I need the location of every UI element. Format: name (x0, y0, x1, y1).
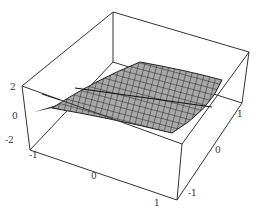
svg-text:0: 0 (12, 111, 18, 121)
svg-text:1: 1 (237, 109, 243, 119)
svg-text:0: 0 (215, 145, 221, 155)
svg-text:1: 1 (154, 198, 160, 208)
svg-text:-1: -1 (188, 188, 197, 198)
y-axis-labels: -1 0 1 (188, 109, 243, 198)
z-axis-labels: 2 0 -2 (5, 82, 18, 145)
x-axis-labels: -1 0 1 (29, 150, 160, 208)
svg-text:0: 0 (91, 171, 97, 181)
mesh-surface (34, 62, 222, 133)
surface-plot: 2 0 -2 -1 0 1 -1 0 1 (0, 0, 256, 218)
svg-text:-2: -2 (5, 135, 14, 145)
svg-text:2: 2 (10, 82, 16, 92)
svg-text:-1: -1 (29, 150, 38, 160)
